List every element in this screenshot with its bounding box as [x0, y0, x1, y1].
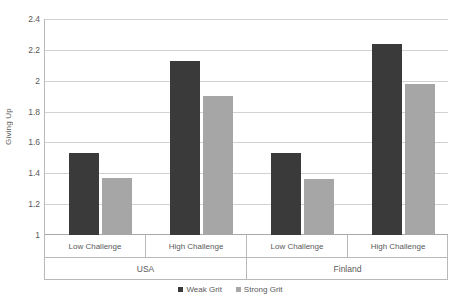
chart-legend: Weak Grit Strong Grit [0, 285, 461, 294]
category-label-usa-high: High Challenge [146, 235, 246, 258]
y-axis-tick: 1.4 [0, 168, 44, 178]
bar-usa-low-weak [69, 153, 99, 235]
group-label-finland: Finland [247, 258, 448, 280]
legend-swatch-icon [178, 287, 183, 292]
bar-finland-low-weak [271, 153, 301, 235]
legend-label: Strong Grit [244, 285, 283, 294]
bar-finland-high-weak [372, 44, 402, 235]
bar-finland-high-strong [405, 84, 435, 235]
category-label-usa-low: Low Challenge [45, 235, 145, 258]
category-axis: Low Challenge High Challenge Low Challen… [44, 235, 448, 258]
y-axis-tick: 1.2 [0, 199, 44, 209]
bar-usa-high-weak [170, 61, 200, 235]
legend-label: Weak Grit [186, 285, 221, 294]
category-label-finland-high: High Challenge [348, 235, 448, 258]
y-axis-tick: 2.2 [0, 45, 44, 55]
group-axis: USA Finland [44, 258, 448, 280]
legend-item-weak-grit: Weak Grit [178, 285, 221, 294]
legend-item-strong-grit: Strong Grit [236, 285, 283, 294]
bar-usa-low-strong [102, 178, 132, 235]
group-label-usa: USA [45, 258, 246, 280]
plot-area [44, 19, 448, 235]
bar-finland-low-strong [304, 179, 334, 235]
legend-swatch-icon [236, 287, 241, 292]
gridline [45, 19, 448, 20]
bar-usa-high-strong [203, 96, 233, 235]
y-axis-tick: 1 [0, 230, 44, 240]
category-label-finland-low: Low Challenge [247, 235, 347, 258]
y-axis-tick: 1.6 [0, 137, 44, 147]
y-axis-tick-labels: 1 1.2 1.4 1.6 1.8 2 2.2 2.4 [0, 0, 44, 307]
y-axis-tick: 2 [0, 76, 44, 86]
y-axis-tick: 2.4 [0, 14, 44, 24]
bar-chart: Giving Up 1 1.2 1.4 1.6 1.8 2 2.2 2.4 Lo… [0, 0, 461, 307]
y-axis-tick: 1.8 [0, 107, 44, 117]
